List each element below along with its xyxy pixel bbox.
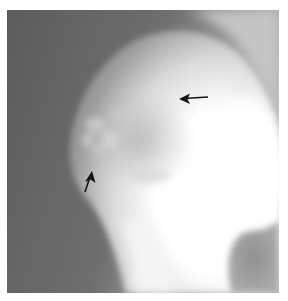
radiograph-image <box>7 10 279 293</box>
radiograph-canvas <box>7 10 279 293</box>
